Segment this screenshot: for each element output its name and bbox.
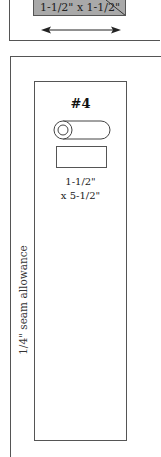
- top-piece-dimension: 1-1/2" x 1-1/2": [34, 0, 126, 16]
- strip-shape-icon: [53, 120, 111, 140]
- dimension-length: x 5-1/2": [34, 190, 127, 201]
- piece-number: #4: [34, 96, 127, 111]
- dimension-width: 1-1/2": [34, 176, 127, 187]
- double-arrow-icon: [41, 26, 121, 34]
- seam-allowance-label: 1/4" seam allowance: [17, 240, 29, 360]
- rectangle-shape: [56, 146, 107, 168]
